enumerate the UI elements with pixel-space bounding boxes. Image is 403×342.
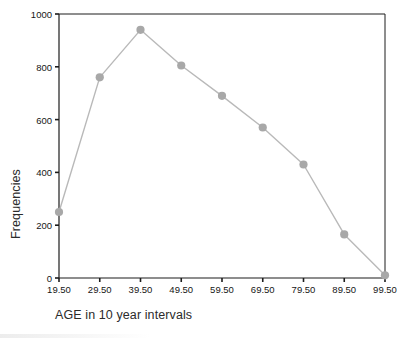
data-point-marker xyxy=(177,61,185,69)
y-axis-tick-label: 600 xyxy=(20,114,52,125)
x-axis-tick-label: 99.50 xyxy=(373,284,397,295)
axis-frame xyxy=(59,14,385,278)
data-point-marker xyxy=(381,271,389,279)
page-edge-artifact xyxy=(0,334,150,338)
x-axis-tick-label: 79.50 xyxy=(292,284,316,295)
y-axis-tick-label: 0 xyxy=(20,273,52,284)
x-axis-tick-label: 29.50 xyxy=(88,284,112,295)
x-axis-title: AGE in 10 year intervals xyxy=(55,308,192,322)
y-axis-tick-label: 800 xyxy=(20,61,52,72)
data-point-marker xyxy=(218,92,226,100)
x-axis-tick-label: 89.50 xyxy=(332,284,356,295)
x-axis-tick-label: 19.50 xyxy=(47,284,71,295)
x-axis-tick-label: 49.50 xyxy=(169,284,193,295)
data-point-marker xyxy=(259,123,267,131)
data-point-marker xyxy=(299,160,307,168)
data-line xyxy=(59,30,385,276)
y-axis-title: Frequencies xyxy=(9,149,25,259)
data-point-marker xyxy=(55,208,63,216)
x-axis-tick-label: 69.50 xyxy=(251,284,275,295)
data-markers xyxy=(55,26,389,280)
frequency-polygon-chart: 02004006008001000 19.5029.5039.5049.5059… xyxy=(0,0,403,342)
data-point-marker xyxy=(340,230,348,238)
data-point-marker xyxy=(96,73,104,81)
y-axis-tick-label: 1000 xyxy=(20,9,52,20)
data-point-marker xyxy=(136,26,144,34)
x-axis-tick-label: 39.50 xyxy=(129,284,153,295)
x-axis-tick-label: 59.50 xyxy=(210,284,234,295)
